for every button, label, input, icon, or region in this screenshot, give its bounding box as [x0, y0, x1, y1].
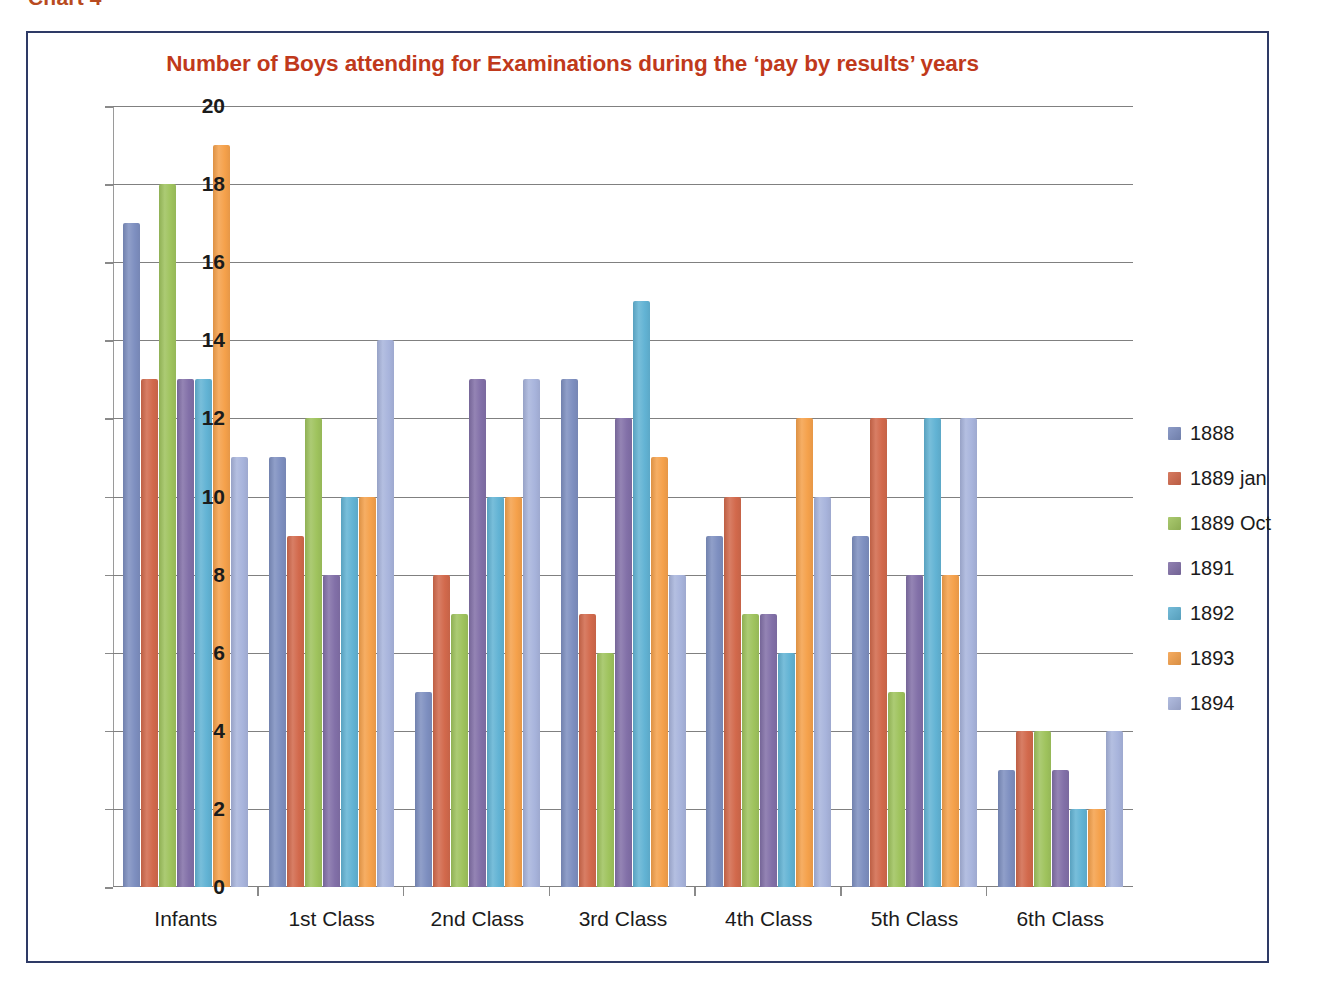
bar[interactable] — [597, 653, 614, 887]
bar[interactable] — [706, 536, 723, 887]
x-axis-category-label: 4th Class — [696, 907, 842, 931]
bar-group — [550, 106, 696, 887]
y-tick-mark — [105, 106, 113, 108]
bar[interactable] — [906, 575, 923, 887]
bar[interactable] — [1034, 731, 1051, 887]
x-axis-tick-mark — [986, 887, 988, 896]
bar[interactable] — [377, 340, 394, 887]
bar-group — [259, 106, 405, 887]
y-tick-label: 6 — [165, 641, 225, 665]
y-tick-mark — [105, 887, 113, 889]
bar[interactable] — [1088, 809, 1105, 887]
bar[interactable] — [341, 497, 358, 888]
bar[interactable] — [287, 536, 304, 887]
x-axis-category-label: Infants — [113, 907, 259, 931]
bar-groups — [113, 106, 1133, 887]
bar[interactable] — [742, 614, 759, 887]
bar-group — [696, 106, 842, 887]
x-axis-tick-mark — [694, 887, 696, 896]
legend-label: 1891 — [1190, 557, 1235, 580]
bar[interactable] — [433, 575, 450, 887]
x-axis-category-labels: Infants1st Class2nd Class3rd Class4th Cl… — [113, 907, 1133, 931]
y-tick-label: 8 — [165, 563, 225, 587]
y-tick-label: 16 — [165, 250, 225, 274]
x-axis-tick-mark — [549, 887, 551, 896]
bar-group — [842, 106, 988, 887]
x-axis-category-label: 6th Class — [987, 907, 1133, 931]
bar[interactable] — [505, 497, 522, 888]
y-tick-label: 0 — [165, 875, 225, 899]
legend-swatch-icon — [1168, 472, 1181, 485]
legend-label: 1889 jan — [1190, 467, 1267, 490]
y-tick-label: 2 — [165, 797, 225, 821]
bar[interactable] — [724, 497, 741, 888]
bar[interactable] — [523, 379, 540, 887]
bar[interactable] — [942, 575, 959, 887]
legend: 18881889 jan1889 Oct1891189218931894 — [1168, 411, 1288, 726]
bar[interactable] — [888, 692, 905, 887]
x-axis-category-label: 1st Class — [259, 907, 405, 931]
y-tick-mark — [105, 809, 113, 811]
bar[interactable] — [487, 497, 504, 888]
chart-frame: Number of Boys attending for Examination… — [26, 31, 1269, 963]
bar[interactable] — [669, 575, 686, 887]
y-tick-mark — [105, 575, 113, 577]
bar[interactable] — [159, 184, 176, 887]
legend-label: 1894 — [1190, 692, 1235, 715]
bar[interactable] — [1070, 809, 1087, 887]
legend-swatch-icon — [1168, 697, 1181, 710]
legend-label: 1893 — [1190, 647, 1235, 670]
bar[interactable] — [231, 457, 248, 887]
legend-item[interactable]: 1893 — [1168, 636, 1288, 681]
bar-group — [987, 106, 1133, 887]
bar[interactable] — [1016, 731, 1033, 887]
bar[interactable] — [469, 379, 486, 887]
legend-item[interactable]: 1889 Oct — [1168, 501, 1288, 546]
x-axis-tick-mark — [403, 887, 405, 896]
bar[interactable] — [305, 418, 322, 887]
bar[interactable] — [924, 418, 941, 887]
chart-title: Number of Boys attending for Examination… — [28, 51, 1117, 77]
bar[interactable] — [323, 575, 340, 887]
bar[interactable] — [870, 418, 887, 887]
bar[interactable] — [359, 497, 376, 888]
x-axis-category-label: 2nd Class — [404, 907, 550, 931]
legend-swatch-icon — [1168, 517, 1181, 530]
y-tick-mark — [105, 262, 113, 264]
bar[interactable] — [141, 379, 158, 887]
y-tick-label: 14 — [165, 328, 225, 352]
x-axis-category-label: 3rd Class — [550, 907, 696, 931]
bar[interactable] — [1106, 731, 1123, 887]
plot-area — [113, 106, 1133, 887]
bar[interactable] — [561, 379, 578, 887]
bar[interactable] — [796, 418, 813, 887]
y-tick-label: 20 — [165, 94, 225, 118]
legend-item[interactable]: 1894 — [1168, 681, 1288, 726]
y-tick-mark — [105, 418, 113, 420]
bar[interactable] — [579, 614, 596, 887]
bar[interactable] — [123, 223, 140, 887]
y-tick-mark — [105, 497, 113, 499]
bar[interactable] — [760, 614, 777, 887]
bar[interactable] — [778, 653, 795, 887]
legend-item[interactable]: 1892 — [1168, 591, 1288, 636]
legend-swatch-icon — [1168, 652, 1181, 665]
bar[interactable] — [651, 457, 668, 887]
legend-label: 1888 — [1190, 422, 1235, 445]
y-tick-mark — [105, 184, 113, 186]
bar[interactable] — [633, 301, 650, 887]
bar[interactable] — [852, 536, 869, 887]
bar[interactable] — [615, 418, 632, 887]
legend-item[interactable]: 1891 — [1168, 546, 1288, 591]
bar[interactable] — [1052, 770, 1069, 887]
bar[interactable] — [814, 497, 831, 888]
legend-item[interactable]: 1889 jan — [1168, 456, 1288, 501]
legend-label: 1892 — [1190, 602, 1235, 625]
bar[interactable] — [415, 692, 432, 887]
bar[interactable] — [269, 457, 286, 887]
legend-swatch-icon — [1168, 427, 1181, 440]
bar[interactable] — [451, 614, 468, 887]
legend-item[interactable]: 1888 — [1168, 411, 1288, 456]
bar[interactable] — [960, 418, 977, 887]
bar[interactable] — [998, 770, 1015, 887]
